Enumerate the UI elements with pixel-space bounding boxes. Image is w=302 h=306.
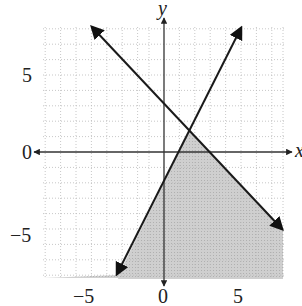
x-tick-0: 0 — [158, 285, 168, 306]
y-tick-neg5: −5 — [10, 224, 31, 246]
x-axis-label: x — [294, 139, 302, 161]
x-tick-5: 5 — [233, 285, 243, 306]
x-tick-neg5: −5 — [73, 285, 94, 306]
y-axis-label: y — [156, 0, 167, 20]
shaded-region-fill — [118, 132, 283, 280]
inequality-graph: y x 5 0 −5 −5 0 5 — [0, 0, 302, 306]
y-tick-0: 0 — [22, 141, 32, 163]
y-tick-5: 5 — [22, 64, 32, 86]
